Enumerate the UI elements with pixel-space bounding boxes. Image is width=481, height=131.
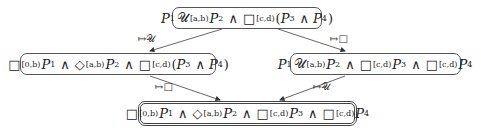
- prop-p: P: [161, 11, 170, 26]
- interval: [c,d): [270, 109, 288, 118]
- prop-p: P: [159, 106, 168, 121]
- node-right: P1 𝒰[a,b) P2 ∧ □[c,d) P3 ∧ □[c,d) P4: [290, 53, 461, 75]
- prop-p: P: [392, 57, 401, 72]
- box-operator: □: [360, 57, 372, 72]
- box-operator: □: [426, 57, 438, 72]
- prop-p: P: [209, 57, 218, 72]
- and-operator: ∧: [228, 11, 238, 26]
- index: 3: [401, 60, 406, 69]
- index: 4: [322, 14, 327, 23]
- index: 1: [170, 14, 175, 23]
- index: 2: [232, 109, 237, 118]
- index: 1: [168, 109, 173, 118]
- box-operator: □: [323, 106, 335, 121]
- prop-p: P: [289, 106, 298, 121]
- diamond-operator: ◇: [75, 57, 85, 72]
- index: 3: [298, 109, 303, 118]
- and-operator: ∧: [178, 106, 188, 121]
- edge-label-until: ↦𝒰: [138, 33, 155, 45]
- interval: [0,b): [21, 60, 40, 69]
- box-operator: □: [257, 106, 269, 121]
- interval: [a,b): [307, 60, 326, 69]
- prop-p: P: [223, 106, 232, 121]
- index: 2: [114, 60, 119, 69]
- prop-p: P: [313, 11, 322, 26]
- and-operator: ∧: [300, 11, 310, 26]
- interval: [c,d): [439, 60, 457, 69]
- index: 1: [50, 60, 55, 69]
- until-operator: 𝒰: [177, 10, 189, 26]
- and-operator: ∧: [60, 57, 70, 72]
- diamond-operator: ◇: [193, 106, 203, 121]
- box-operator: □: [243, 11, 255, 26]
- node-left: □[0,b) P1 ∧ ◇[a,b) P2 ∧ □[c,d) (P3 ∧ P4): [20, 53, 216, 75]
- edge-label-globally: ↦□: [330, 33, 348, 44]
- interval: [a,b): [204, 109, 223, 118]
- prop-p: P: [326, 57, 335, 72]
- and-operator: ∧: [242, 106, 252, 121]
- prop-p: P: [41, 57, 50, 72]
- prop-p: P: [278, 57, 287, 72]
- node-bottom: □[0,b) P1 ∧ ◇[a,b) P2 ∧ □[c,d) P3 ∧ □[c,…: [138, 101, 357, 126]
- index: 3: [289, 14, 294, 23]
- prop-p: P: [355, 106, 364, 121]
- and-operator: ∧: [345, 57, 355, 72]
- prop-p: P: [177, 57, 186, 72]
- edge-top-left: [150, 29, 222, 51]
- node-top: P1 𝒰[a,b) P2 ∧ □[c,d) (P3 ∧ P4): [172, 7, 322, 29]
- and-operator: ∧: [308, 106, 318, 121]
- and-operator: ∧: [195, 57, 205, 72]
- interval: [c,d): [373, 60, 391, 69]
- and-operator: ∧: [124, 57, 134, 72]
- interval: [c,d): [152, 60, 170, 69]
- interval: [a,b): [86, 60, 105, 69]
- paren: ): [224, 57, 229, 72]
- box-operator: □: [126, 106, 138, 121]
- paren: ): [328, 11, 333, 26]
- edge-label-globally: ↦□: [155, 81, 173, 92]
- index: 4: [467, 60, 472, 69]
- prop-p: P: [105, 57, 114, 72]
- edge-label-until: ↦𝒰: [313, 81, 330, 93]
- index: 4: [218, 60, 223, 69]
- index: 2: [218, 14, 223, 23]
- index: 2: [335, 60, 340, 69]
- interval: [c,d): [256, 14, 274, 23]
- until-operator: 𝒰: [294, 56, 306, 72]
- index: 3: [185, 60, 190, 69]
- interval: [0,b): [139, 109, 158, 118]
- prop-p: P: [281, 11, 290, 26]
- box-operator: □: [8, 57, 20, 72]
- index: 4: [364, 109, 369, 118]
- interval: [c,d): [336, 109, 354, 118]
- box-operator: □: [139, 57, 151, 72]
- interval: [a,b): [190, 14, 209, 23]
- prop-p: P: [210, 11, 219, 26]
- and-operator: ∧: [411, 57, 421, 72]
- index: 1: [287, 60, 292, 69]
- prop-p: P: [458, 57, 467, 72]
